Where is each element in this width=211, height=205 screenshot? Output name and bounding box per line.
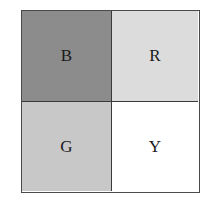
cell-y-label: Y (149, 137, 161, 157)
cell-b: B (22, 11, 112, 102)
cell-g-label: G (60, 137, 72, 157)
cell-y: Y (112, 102, 198, 191)
color-grid: B R G Y (21, 10, 200, 193)
cell-g: G (22, 102, 112, 191)
cell-r-label: R (149, 46, 160, 66)
cell-r: R (112, 11, 198, 102)
cell-b-label: B (61, 46, 72, 66)
